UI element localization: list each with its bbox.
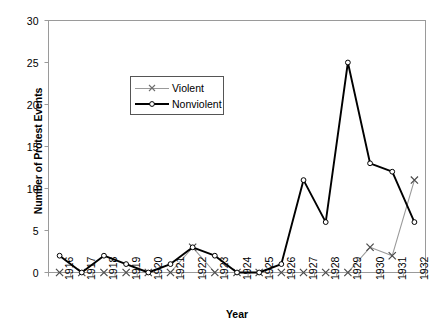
circle-marker-icon	[235, 270, 240, 275]
circle-marker-icon	[57, 253, 62, 258]
circle-marker-icon	[168, 262, 173, 267]
x-tick-label: 1927	[308, 256, 318, 279]
x-marker-icon	[389, 252, 396, 259]
x-tick-label: 1925	[264, 256, 274, 279]
x-tick-label: 1931	[397, 256, 407, 279]
x-tick-label: 1924	[242, 256, 252, 279]
circle-marker-icon	[148, 100, 156, 108]
x-tick-label: 1923	[219, 256, 229, 279]
circle-marker-icon	[257, 270, 262, 275]
circle-marker-icon	[212, 253, 217, 258]
circle-marker-icon	[412, 220, 417, 225]
circle-marker-icon	[301, 178, 306, 183]
x-marker-icon	[411, 177, 418, 184]
series-line-nonviolent	[60, 63, 415, 273]
legend-item-violent: Violent	[135, 80, 204, 96]
circle-marker-icon	[146, 270, 151, 275]
legend-label-nonviolent: Nonviolent	[172, 98, 222, 110]
y-tick-label: 15	[13, 142, 39, 152]
x-tick-label: 1922	[197, 256, 207, 279]
circle-marker-icon	[323, 220, 328, 225]
y-tick-label: 0	[13, 268, 39, 278]
circle-marker-icon	[345, 60, 350, 65]
y-tick-label: 25	[13, 58, 39, 68]
x-tick-label: 1929	[352, 256, 362, 279]
legend-swatch-violent	[135, 82, 169, 94]
circle-marker-icon	[368, 161, 373, 166]
x-tick-label: 1926	[286, 256, 296, 279]
legend-swatch-nonviolent	[135, 98, 169, 110]
x-marker-icon	[366, 244, 373, 251]
x-tick-label: 1919	[131, 256, 141, 279]
circle-marker-icon	[279, 262, 284, 267]
circle-marker-icon	[102, 253, 107, 258]
circle-marker-icon	[79, 270, 84, 275]
protest-events-line-chart: Number of Protest Events Year 0510152025…	[0, 0, 441, 328]
x-tick-label: 1930	[375, 256, 385, 279]
legend-item-nonviolent: Nonviolent	[135, 96, 222, 112]
circle-marker-icon	[190, 245, 195, 250]
y-tick-label: 30	[13, 16, 39, 26]
x-tick-label: 1920	[153, 256, 163, 279]
legend-label-violent: Violent	[172, 82, 204, 94]
x-marker-icon	[148, 84, 156, 92]
circle-marker-icon	[390, 169, 395, 174]
y-tick-label: 10	[13, 184, 39, 194]
circle-marker-icon	[124, 262, 129, 267]
x-axis-title: Year	[48, 308, 426, 320]
x-tick-label: 1918	[108, 256, 118, 279]
x-tick-label: 1916	[64, 256, 74, 279]
plot-frame	[49, 21, 426, 273]
chart-legend: Violent Nonviolent	[130, 76, 224, 115]
y-tick-label: 20	[13, 100, 39, 110]
x-tick-label: 1921	[175, 256, 185, 279]
x-tick-label: 1917	[86, 256, 96, 279]
x-tick-label: 1928	[330, 256, 340, 279]
x-tick-label: 1932	[419, 256, 429, 279]
y-tick-label: 5	[13, 226, 39, 236]
